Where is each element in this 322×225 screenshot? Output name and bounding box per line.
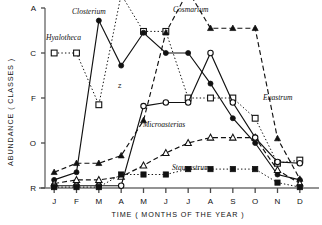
data-point-closterium [96, 102, 102, 108]
data-point-staurastrum [230, 167, 235, 172]
data-point-microasterias [140, 162, 146, 168]
data-point-closterium [208, 95, 214, 101]
data-point-hyalotheca [74, 170, 79, 175]
series-line-cosmarium [54, 0, 300, 179]
data-point-staurastrum [297, 185, 302, 190]
x-tick-label: F [74, 197, 79, 206]
y-tick-label: R [30, 184, 36, 193]
data-point-closterium [74, 50, 80, 56]
data-point-euastrum [297, 161, 302, 166]
z-annotation: Z [118, 83, 122, 89]
data-point-euastrum [185, 100, 190, 105]
series-label-staurastrum: Staurastrum [172, 163, 210, 172]
data-point-hyalotheca [163, 51, 168, 56]
data-point-staurastrum [141, 172, 146, 177]
x-tick-label: A [118, 197, 124, 206]
data-point-cosmarium [208, 25, 214, 31]
data-point-closterium [51, 50, 57, 56]
chart-canvas: ACFORJFMAMJJASONDClosteriumHyalothecaCos… [0, 0, 322, 225]
data-point-euastrum [118, 183, 123, 188]
series-label-euastrum: Euastrum [262, 93, 293, 102]
x-tick-label: J [164, 197, 168, 206]
data-point-hyalotheca [253, 141, 258, 146]
y-tick-label: C [30, 49, 36, 58]
x-tick-label: S [230, 197, 235, 206]
series-label-hyalotheca: Hyalotheca [45, 33, 81, 42]
data-point-euastrum [275, 159, 280, 164]
y-tick-label: A [31, 4, 37, 13]
x-tick-label: J [186, 197, 190, 206]
x-tick-label: M [140, 197, 147, 206]
data-point-euastrum [141, 103, 146, 108]
data-point-staurastrum [119, 172, 124, 177]
data-point-staurastrum [253, 167, 258, 172]
x-tick-label: O [252, 197, 258, 206]
x-tick-label: A [208, 197, 214, 206]
y-tick-label: O [30, 139, 36, 148]
series-line-closterium [54, 0, 300, 163]
data-point-microasterias [274, 167, 280, 173]
data-point-hyalotheca [186, 51, 191, 56]
data-point-cosmarium [252, 25, 258, 31]
data-point-euastrum [163, 100, 168, 105]
data-point-staurastrum [163, 172, 168, 177]
series-label-microasterias: Microasterias [142, 120, 185, 129]
series-label-cosmarium: Cosmarium [173, 5, 209, 14]
data-point-staurastrum [96, 185, 101, 190]
data-point-staurastrum [275, 180, 280, 185]
x-tick-label: N [275, 197, 281, 206]
series-line-microasterias [54, 138, 300, 184]
data-point-hyalotheca [230, 116, 235, 121]
data-point-euastrum [230, 100, 235, 105]
data-point-hyalotheca [96, 18, 101, 23]
data-point-closterium [252, 115, 258, 121]
data-point-staurastrum [52, 185, 57, 190]
x-tick-label: J [52, 197, 56, 206]
x-tick-label: D [297, 197, 303, 206]
data-point-hyalotheca [119, 63, 124, 68]
series-label-closterium: Closterium [72, 7, 106, 16]
y-tick-label: F [31, 94, 36, 103]
data-point-euastrum [208, 50, 213, 55]
x-tick-label: M [95, 197, 102, 206]
data-point-hyalotheca [141, 30, 146, 35]
data-point-cosmarium [275, 135, 281, 141]
data-point-euastrum [252, 135, 257, 140]
data-point-hyalotheca [208, 81, 213, 86]
data-point-microasterias [207, 134, 213, 140]
data-point-staurastrum [74, 185, 79, 190]
chart-figure: ACFORJFMAMJJASONDClosteriumHyalothecaCos… [0, 0, 322, 225]
